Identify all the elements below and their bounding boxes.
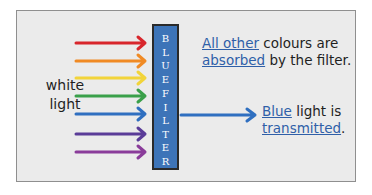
note-text: light is — [292, 103, 341, 119]
filter-letter: E — [162, 141, 169, 155]
note-text: . — [341, 120, 345, 136]
filter-letter: U — [161, 59, 169, 73]
blue-filter: B L U E F I L T E R — [152, 24, 179, 170]
filter-letter: I — [164, 101, 168, 115]
filter-letter: F — [162, 87, 169, 101]
filter-letter: T — [162, 128, 169, 142]
white-label-line1: white — [40, 76, 90, 95]
ray-arrow-red — [76, 37, 145, 49]
ray-arrow-violet — [76, 146, 145, 158]
absorbed-text: absorbed — [202, 52, 265, 68]
ray-arrow-indigo — [76, 128, 145, 140]
blue-text: Blue — [262, 103, 292, 119]
transmitted-arrow — [181, 109, 255, 121]
note-text: by the filter. — [265, 52, 351, 68]
light-label-line2: light — [40, 95, 90, 114]
all-other-text: All other — [202, 35, 259, 51]
filter-letter: R — [162, 155, 170, 169]
note-text: colours are — [259, 35, 338, 51]
filter-letter: L — [162, 114, 169, 128]
ray-arrow-orange — [76, 55, 145, 67]
absorbed-note: All other colours are absorbed by the fi… — [202, 35, 352, 69]
white-light-label: white light — [40, 76, 90, 114]
filter-letter: L — [162, 46, 169, 60]
transmitted-text: transmitted — [262, 120, 341, 136]
transmitted-note: Blue light is transmitted. — [262, 103, 362, 137]
filter-letter: E — [162, 73, 169, 87]
filter-letter: B — [162, 32, 169, 46]
